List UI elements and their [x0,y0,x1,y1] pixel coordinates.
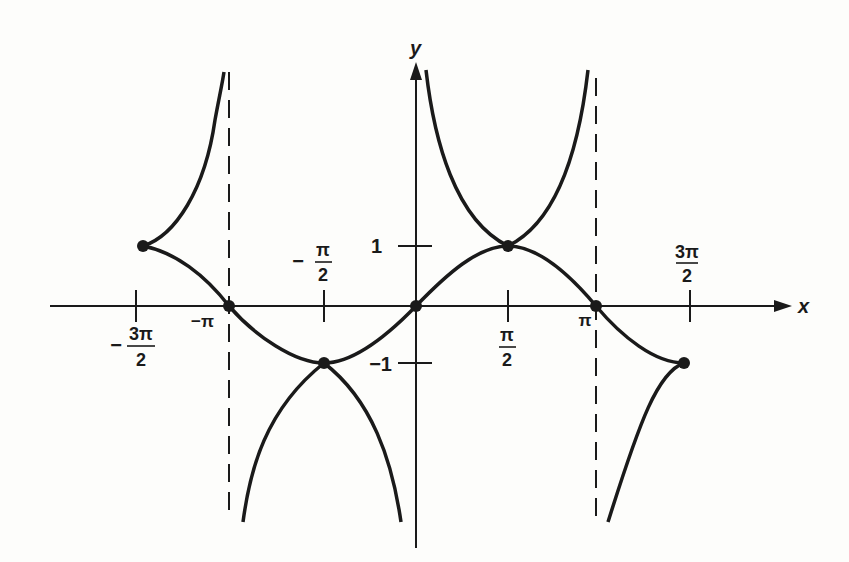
svg-text:3π: 3π [675,242,699,262]
csc-branch-4 [608,363,684,522]
csc-branch-3 [426,70,588,246]
svg-text:2: 2 [502,350,512,370]
svg-text:π: π [316,240,330,260]
svg-text:3π: 3π [129,324,153,344]
point-3pi-2 [678,357,690,369]
asymptotes [229,72,596,520]
x-tick-label-pi-2: π 2 [499,325,516,370]
x-axis-arrow-icon [774,300,792,312]
x-tick-label-pi: π [578,311,591,330]
y-axis: y [409,37,422,548]
point-neg-pi-2 [318,357,330,369]
csc-branch-1 [143,72,224,246]
point-origin [410,300,422,312]
y-tick-label-neg1: −1 [369,353,392,375]
point-neg-3pi-2 [137,240,149,252]
x-axis-label: x [797,295,810,317]
y-axis-arrow-icon [410,62,422,80]
point-neg-pi [223,300,235,312]
y-tick-label-1: 1 [371,235,382,257]
svg-text:2: 2 [682,266,692,286]
point-pi [590,300,602,312]
x-tick-label-neg-pi: −π [191,312,214,331]
x-tick-label-3pi-2: 3π 2 [675,242,699,286]
point-pi-2 [502,240,514,252]
svg-text:π: π [500,325,514,345]
y-axis-label: y [409,37,422,59]
svg-text:2: 2 [136,350,146,370]
svg-text:−: − [110,334,122,356]
x-axis: x [50,295,810,317]
svg-text:−: − [292,250,304,272]
x-tick-label-neg-3pi-2: − 3π 2 [110,324,155,370]
marked-points [137,240,690,369]
svg-text:2: 2 [318,265,328,285]
sin-csc-graph: x y 1 −1 − 3π [0,0,849,562]
x-tick-label-neg-pi-2: − π 2 [292,240,332,285]
csc-branch-2 [243,363,401,522]
